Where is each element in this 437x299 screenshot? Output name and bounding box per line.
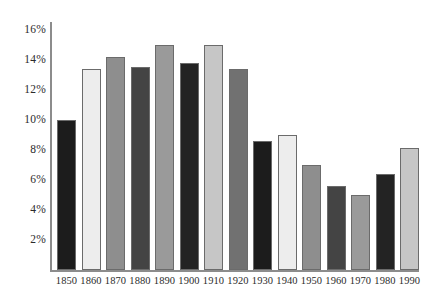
y-tick-label: 2% — [2, 234, 46, 246]
y-tick-label: 12% — [2, 84, 46, 96]
bar — [131, 67, 150, 270]
bar — [155, 45, 174, 270]
bar — [400, 148, 419, 270]
bar — [278, 135, 297, 270]
y-tick-label: 4% — [2, 204, 46, 216]
bar — [82, 69, 101, 270]
x-tick-label: 1990 — [393, 275, 427, 288]
y-tick-label: 14% — [2, 54, 46, 66]
bar — [351, 195, 370, 270]
bar — [327, 186, 346, 270]
x-axis-tick-labels: 1850186018701880189019001910192019301940… — [52, 275, 419, 295]
bar — [204, 45, 223, 270]
plot-area — [52, 22, 419, 270]
y-axis-tick-labels: 2%4%6%8%10%12%14%16% — [0, 0, 46, 299]
y-tick-label: 16% — [2, 24, 46, 36]
bar — [302, 165, 321, 270]
bar-chart: 2%4%6%8%10%12%14%16% 1850186018701880189… — [0, 0, 437, 299]
bar — [229, 69, 248, 270]
bar — [106, 57, 125, 270]
bar — [376, 174, 395, 270]
x-axis-line — [50, 270, 419, 272]
y-tick-label: 6% — [2, 174, 46, 186]
bar — [57, 120, 76, 270]
y-tick-label: 8% — [2, 144, 46, 156]
bar — [180, 63, 199, 270]
y-tick-label: 10% — [2, 114, 46, 126]
bar — [253, 141, 272, 270]
